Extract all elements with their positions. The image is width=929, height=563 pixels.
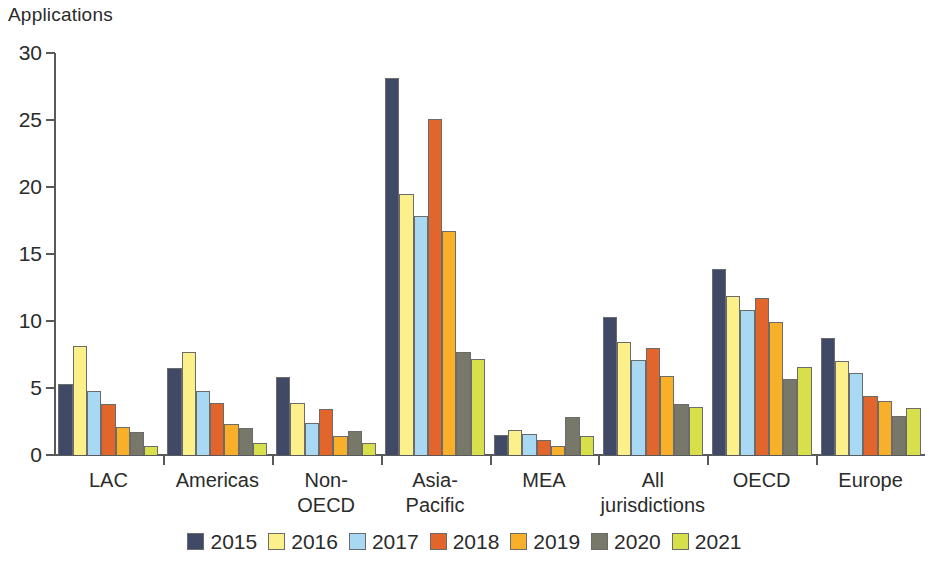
bar — [239, 428, 253, 455]
bar — [906, 408, 920, 455]
chart-legend: 2015201620172018201920202021 — [0, 531, 929, 552]
legend-label: 2018 — [453, 531, 500, 552]
y-axis-tick-label: 5 — [2, 376, 42, 400]
bar — [385, 78, 399, 455]
y-axis-tick-label: 30 — [2, 41, 42, 65]
bar-group-bars — [167, 53, 267, 455]
bar — [674, 404, 688, 455]
bar — [130, 432, 144, 455]
x-axis-category-label: Europe — [816, 468, 925, 493]
x-axis-tick — [598, 455, 600, 465]
bar — [362, 443, 376, 455]
bar — [182, 352, 196, 455]
y-axis-tick — [46, 387, 55, 389]
bar — [87, 391, 101, 455]
bar — [319, 409, 333, 455]
legend-item: 2016 — [268, 531, 338, 552]
bar — [494, 435, 508, 455]
legend-swatch-icon — [187, 533, 204, 550]
bar — [333, 436, 347, 455]
bar — [689, 407, 703, 455]
y-axis-tick — [46, 119, 55, 121]
x-axis-category-label: Americas — [163, 468, 272, 493]
bar — [471, 359, 485, 455]
bar — [224, 424, 238, 455]
bar — [101, 404, 115, 455]
x-axis-category-label: Non- OECD — [272, 468, 381, 518]
bar-group — [712, 53, 812, 455]
legend-swatch-icon — [591, 533, 608, 550]
x-axis-category-label: All jurisdictions — [598, 468, 707, 518]
y-axis-tick — [46, 186, 55, 188]
bar-group — [58, 53, 158, 455]
x-axis-tick — [272, 455, 274, 465]
y-axis-tick — [46, 253, 55, 255]
legend-item: 2015 — [187, 531, 257, 552]
bar — [399, 194, 413, 455]
bar-group — [821, 53, 921, 455]
legend-label: 2017 — [372, 531, 419, 552]
bar-group-bars — [58, 53, 158, 455]
bar — [116, 427, 130, 455]
y-axis-labels: 051015202530 — [0, 0, 42, 563]
bar-group — [276, 53, 376, 455]
y-axis-tick — [46, 454, 55, 456]
bar — [712, 269, 726, 455]
bar-group — [167, 53, 267, 455]
y-axis-tick-label: 0 — [2, 443, 42, 467]
bar — [428, 119, 442, 455]
plot-area — [54, 53, 925, 455]
bar — [522, 434, 536, 455]
y-axis-tick-label: 20 — [2, 175, 42, 199]
bar — [646, 348, 660, 455]
bar — [783, 379, 797, 455]
bar — [58, 384, 72, 455]
x-axis-tick — [381, 455, 383, 465]
bar — [565, 417, 579, 455]
bar-group — [603, 53, 703, 455]
bar-group-bars — [821, 53, 921, 455]
y-axis-tick-label: 10 — [2, 309, 42, 333]
bar — [849, 373, 863, 455]
x-axis-category-label: Asia- Pacific — [381, 468, 490, 518]
bar — [196, 391, 210, 455]
y-axis-tick — [46, 320, 55, 322]
y-axis-tick-label: 15 — [2, 242, 42, 266]
bar — [603, 317, 617, 455]
bar — [276, 377, 290, 455]
bar — [537, 440, 551, 455]
bar — [755, 298, 769, 455]
bar-group-bars — [276, 53, 376, 455]
x-axis-category-label: LAC — [54, 468, 163, 493]
legend-swatch-icon — [672, 533, 689, 550]
legend-item: 2020 — [591, 531, 661, 552]
bar — [878, 401, 892, 455]
legend-label: 2016 — [291, 531, 338, 552]
bar — [835, 361, 849, 455]
bar — [821, 338, 835, 455]
x-axis-tick — [816, 455, 818, 465]
legend-item: 2018 — [430, 531, 500, 552]
bar-group — [385, 53, 485, 455]
legend-swatch-icon — [268, 533, 285, 550]
bar — [73, 346, 87, 455]
bar — [508, 430, 522, 455]
bar — [631, 360, 645, 455]
x-axis-category-label: MEA — [490, 468, 599, 493]
y-axis-tick-label: 25 — [2, 108, 42, 132]
bar — [456, 352, 470, 455]
bar — [210, 403, 224, 455]
bar — [442, 231, 456, 455]
bar — [740, 310, 754, 455]
bar-group-bars — [494, 53, 594, 455]
bar — [726, 296, 740, 455]
x-axis-tick — [707, 455, 709, 465]
legend-swatch-icon — [510, 533, 527, 550]
legend-item: 2017 — [349, 531, 419, 552]
bar — [551, 446, 565, 455]
bar — [414, 216, 428, 455]
x-axis-tick — [163, 455, 165, 465]
bar — [660, 376, 674, 455]
bar-group-bars — [385, 53, 485, 455]
legend-label: 2021 — [695, 531, 742, 552]
